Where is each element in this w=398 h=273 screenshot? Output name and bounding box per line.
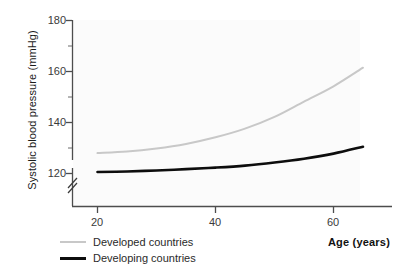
legend-label: Developed countries	[93, 236, 193, 248]
y-tick-160: 160	[36, 66, 66, 77]
y-tick-120: 120	[36, 168, 66, 179]
legend-item-developing-countries: Developing countries	[60, 250, 290, 266]
legend-swatch-icon	[60, 257, 86, 260]
x-tick-60: 60	[313, 216, 353, 228]
legend-swatch-icon	[60, 241, 86, 243]
chart-figure: Systolic blood pressure (mmHg) 180 160 1…	[0, 0, 398, 273]
legend-item-developed-countries: Developed countries	[60, 234, 290, 250]
x-axis-title: Age (years)	[328, 236, 390, 248]
series-line-developed-countries	[98, 68, 364, 153]
y-tick-label: 180	[38, 15, 66, 26]
legend: Developed countries Developing countries	[60, 234, 290, 266]
y-tick-label: 140	[38, 117, 66, 128]
x-tick-20: 20	[77, 216, 117, 228]
y-tick-140: 140	[36, 117, 66, 128]
chart-canvas	[0, 0, 398, 273]
legend-label: Developing countries	[93, 252, 196, 264]
y-tick-180: 180	[36, 15, 66, 26]
y-tick-label: 160	[38, 66, 66, 77]
y-tick-label: 120	[38, 168, 66, 179]
x-tick-40: 40	[195, 216, 235, 228]
y-minor-ticks	[68, 46, 72, 148]
